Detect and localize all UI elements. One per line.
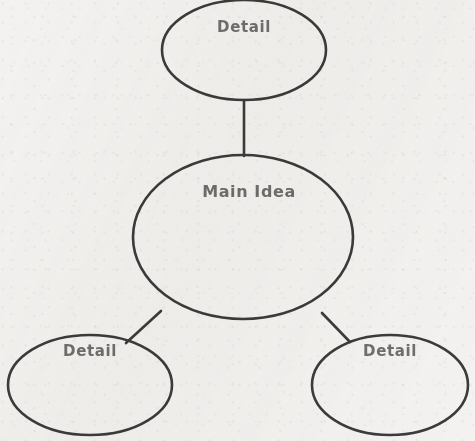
node-detail-bottom-right-label: Detail [363, 342, 417, 360]
node-main-idea-label: Main Idea [202, 182, 296, 201]
node-detail-top[interactable]: Detail [162, 0, 326, 100]
concept-map-diagram: Detail Main Idea Detail Detail [0, 0, 475, 441]
connector-group [126, 100, 350, 343]
node-detail-bottom-right[interactable]: Detail [312, 335, 468, 435]
concept-map-canvas: Detail Main Idea Detail Detail [0, 0, 475, 441]
node-detail-bottom-left-label: Detail [63, 342, 117, 360]
background-ghost-marks [248, 243, 253, 256]
node-main-idea[interactable]: Main Idea [133, 155, 353, 319]
node-main-idea-shape[interactable] [133, 155, 353, 319]
node-detail-top-label: Detail [217, 18, 271, 36]
node-detail-bottom-left[interactable]: Detail [8, 335, 172, 435]
node-detail-top-shape[interactable] [162, 0, 326, 100]
connector-center-to-bottom-left [126, 311, 161, 343]
connector-center-to-bottom-right [322, 313, 350, 342]
